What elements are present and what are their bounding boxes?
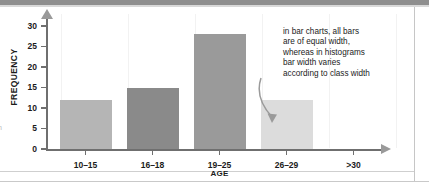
figure-page: n FREQUENCY 051015202530 10–1516–1819–25… <box>0 0 429 194</box>
annotation-curved-arrow-icon <box>258 76 292 130</box>
x-axis-tick <box>286 149 287 155</box>
annotation-line: are of equal width, <box>283 37 415 47</box>
x-axis-tick-label: 26–29 <box>257 160 317 170</box>
annotation-line: whereas in histograms <box>283 48 415 58</box>
x-axis-title: AGE <box>190 169 250 178</box>
x-axis-tick <box>219 149 220 155</box>
x-axis-tick-label: >30 <box>324 160 384 170</box>
annotation-line: bar width varies <box>283 58 415 68</box>
annotation-line: according to class width <box>283 69 415 79</box>
page-footer-rule <box>0 181 429 182</box>
page-right-margin <box>415 7 429 182</box>
x-axis-tick-label: 16–18 <box>123 160 183 170</box>
x-axis-tick-label: 10–15 <box>56 160 116 170</box>
annotation-line: in bar charts, all bars <box>283 27 415 37</box>
x-axis-tick <box>353 149 354 155</box>
page-top-band-shadow <box>0 5 429 7</box>
x-axis-tick <box>85 149 86 155</box>
x-axis-line <box>46 149 382 151</box>
bar <box>127 88 179 149</box>
x-axis-tick <box>152 149 153 155</box>
annotation-text: in bar charts, all barsare of equal widt… <box>283 27 415 79</box>
bar <box>60 100 112 149</box>
bar <box>194 34 246 149</box>
